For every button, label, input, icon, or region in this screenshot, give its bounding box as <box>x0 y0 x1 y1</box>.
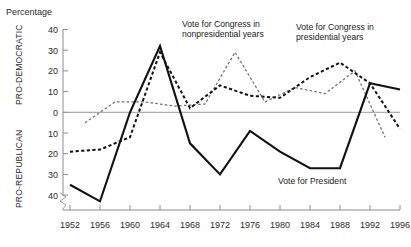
chart-title: Percentage <box>6 7 52 17</box>
annot-president: Vote for President <box>278 176 347 186</box>
x-tick-1952: 1952 <box>60 220 80 230</box>
x-tick-1996: 1996 <box>390 220 410 230</box>
y-tick-30-dem: 30 <box>48 46 58 56</box>
y-tick-20-dem: 20 <box>48 66 58 76</box>
y-tick-40-dem: 40 <box>48 25 58 35</box>
x-tick-1956: 1956 <box>90 220 110 230</box>
x-tick-1988: 1988 <box>330 220 350 230</box>
x-tick-1992: 1992 <box>360 220 380 230</box>
y-tick-40-rep: 40 <box>48 191 58 201</box>
axis-side-label-pro-democratic: PRO-DEMOCRATIC <box>14 24 24 105</box>
y-tick-0: 0 <box>53 108 58 118</box>
annotation-vote-for-president: Vote for President <box>278 176 347 186</box>
annot-nonpres-line1: Vote for Congress in <box>182 19 260 29</box>
annot-nonpres-line2: nonpresidential years <box>182 29 264 39</box>
y-tick-10-rep: 10 <box>48 129 58 139</box>
x-tick-1964: 1964 <box>150 220 170 230</box>
annotation-congress-presidential: Vote for Congress in presidential years <box>296 22 374 42</box>
x-axis-tick-labels: 1952 1956 1960 1964 1968 1972 1976 1980 … <box>60 220 410 230</box>
y-tick-30-rep: 30 <box>48 170 58 180</box>
x-tick-1960: 1960 <box>120 220 140 230</box>
election-vote-line-chart: Percentage PRO-DEMOCRATIC PRO-REPUBLICAN… <box>0 0 411 247</box>
y-tick-20-rep: 20 <box>48 149 58 159</box>
x-axis-ticks <box>70 205 400 210</box>
annotation-congress-nonpresidential: Vote for Congress in nonpresidential yea… <box>182 19 264 39</box>
x-tick-1976: 1976 <box>240 220 260 230</box>
series-congress-nonpresidential <box>85 52 385 137</box>
chart-container: Percentage PRO-DEMOCRATIC PRO-REPUBLICAN… <box>0 0 411 247</box>
x-tick-1980: 1980 <box>270 220 290 230</box>
y-tick-10-dem: 10 <box>48 87 58 97</box>
axis-side-label-pro-republican: PRO-REPUBLICAN <box>14 130 24 208</box>
annot-pres-line1: Vote for Congress in <box>296 22 374 32</box>
annot-pres-line2: presidential years <box>296 32 363 42</box>
y-axis-tick-labels: 40 30 20 10 0 10 20 30 40 <box>48 25 58 201</box>
x-tick-1984: 1984 <box>300 220 320 230</box>
x-tick-1968: 1968 <box>180 220 200 230</box>
x-tick-1972: 1972 <box>210 220 230 230</box>
